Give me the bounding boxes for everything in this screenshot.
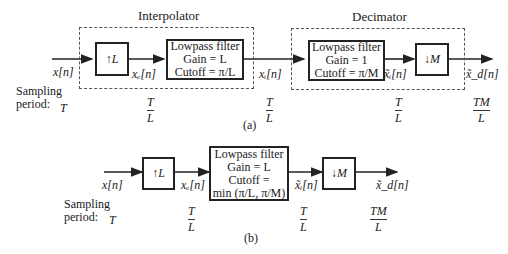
period-expanded-a: TL <box>147 96 154 125</box>
downsampler-block-b: ↓M <box>322 157 356 190</box>
interpolator-title: Interpolator <box>138 8 199 24</box>
period-label-b: period: <box>64 210 98 225</box>
signal-xi-n-a: xᵢ[n] <box>259 67 282 82</box>
signal-x-n-b: x[n] <box>102 178 123 193</box>
interpolator-lowpass-filter: Lowpass filter Gain = L Cutoff = π/L <box>166 39 244 80</box>
upsampler-block-a: ↑L <box>95 42 129 76</box>
caption-b: (b) <box>244 231 258 246</box>
period-input-b: T <box>109 213 116 228</box>
decimator-lowpass-filter: Lowpass filter Gain = 1 Cutoff = π/M <box>308 40 385 81</box>
signal-xi-tilde-n-a: x̃ᵢ[n] <box>384 67 407 82</box>
signal-xe-n-a: xₑ[n] <box>132 67 156 82</box>
combined-lowpass-filter: Lowpass filter Gain = L Cutoff = min (π/… <box>209 146 289 201</box>
upsampler-block-b: ↑L <box>142 157 175 190</box>
signal-x-n-a: x[n] <box>53 65 74 80</box>
signal-xe-n-b: xₑ[n] <box>181 178 205 193</box>
period-filtered-a: TL <box>395 96 402 125</box>
downsampler-block-a: ↓M <box>415 43 449 76</box>
signal-xi-tilde-n-b: x̃ᵢ[n] <box>295 178 318 193</box>
period-filtered-b: TL <box>300 205 307 234</box>
period-output-b: TML <box>370 205 387 234</box>
signal-xd-tilde-n-b: x̃_d[n] <box>376 178 409 193</box>
period-label-a: period: <box>16 97 50 112</box>
decimator-title: Decimator <box>352 9 407 25</box>
caption-a: (a) <box>243 118 256 133</box>
period-output-a: TML <box>473 96 490 125</box>
period-expanded-b: TL <box>188 205 195 234</box>
period-interpolated-a: TL <box>266 96 273 125</box>
period-input-a: T <box>60 101 67 116</box>
signal-xd-tilde-n-a: x̃_d[n] <box>466 67 499 82</box>
